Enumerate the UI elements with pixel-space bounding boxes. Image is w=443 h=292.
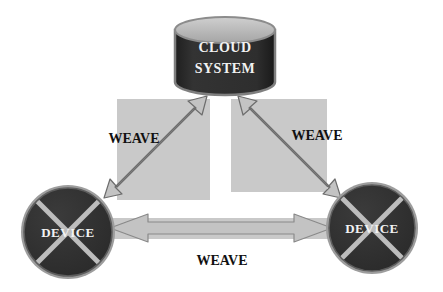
diagram-canvas: CLOUD SYSTEM DEVICE DEVICE [0, 0, 443, 292]
weave-right-label: WEAVE [291, 128, 342, 143]
weave-left-label: WEAVE [108, 131, 159, 146]
labels-layer: WEAVE WEAVE WEAVE [0, 0, 443, 292]
weave-bottom-label: WEAVE [196, 253, 247, 268]
